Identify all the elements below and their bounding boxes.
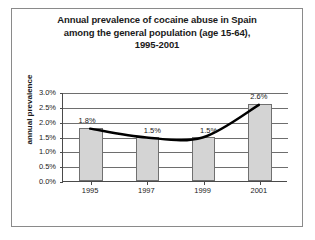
y-tick-label: 1.0% — [26, 148, 56, 156]
y-tick-label: 1.5% — [26, 134, 56, 142]
chart-image: Annual prevalence of cocaine abuse in Sp… — [0, 0, 315, 240]
y-tick-label: 0.0% — [26, 178, 56, 186]
x-tick-mark — [147, 182, 148, 185]
x-tick-label: 1999 — [183, 186, 223, 195]
y-tick-label: 2.5% — [26, 104, 56, 112]
y-tick-mark — [60, 182, 63, 183]
x-tick-label: 2001 — [239, 186, 279, 195]
y-tick-label: 0.5% — [26, 163, 56, 171]
data-label: 2.6% — [242, 92, 276, 101]
y-tick-label: 3.0% — [26, 89, 56, 97]
x-tick-mark — [260, 182, 261, 185]
x-tick-label: 1995 — [70, 186, 110, 195]
chart-area: annual prevalence 3.0%2.5%2.0%1.5%1.0%0.… — [0, 0, 315, 240]
y-tick-label: 2.0% — [26, 119, 56, 127]
data-label: 1.5% — [192, 126, 226, 135]
data-label: 1.8% — [70, 116, 104, 125]
data-label: 1.5% — [135, 126, 169, 135]
trend-line-path — [90, 105, 259, 140]
x-tick-label: 1997 — [126, 186, 166, 195]
trend-line — [62, 93, 287, 182]
y-axis-tick-labels: 3.0%2.5%2.0%1.5%1.0%0.5%0.0% — [26, 0, 56, 240]
x-tick-mark — [91, 182, 92, 185]
x-tick-mark — [204, 182, 205, 185]
